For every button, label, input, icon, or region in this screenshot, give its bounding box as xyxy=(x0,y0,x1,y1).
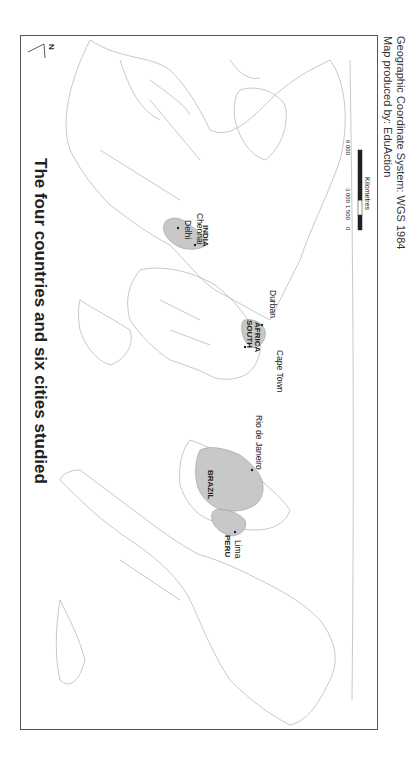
city-dot-rio xyxy=(251,469,253,471)
north-america-outline xyxy=(60,470,335,725)
scale-tick-6000: 6 000 xyxy=(345,140,351,155)
australia-outline xyxy=(234,88,286,160)
scale-tick-1500: 1 500 xyxy=(345,205,351,220)
country-label-peru: PERU xyxy=(223,535,232,557)
country-label-brazil: BRAZIL xyxy=(206,470,215,499)
map-title: The four countries and six cities studie… xyxy=(30,158,50,484)
scale-unit: Kilometres xyxy=(364,177,371,210)
city-label-durban: Durban xyxy=(268,290,278,318)
city-label-lima: Lima xyxy=(233,540,243,558)
city-dot-lima xyxy=(234,531,236,533)
city-label-delhi: Delhi xyxy=(183,220,193,239)
credit-producer: Map produced by: EduAction xyxy=(382,36,394,177)
eurasia-outline xyxy=(66,40,345,320)
scale-bar xyxy=(358,150,362,230)
city-dot-delhi xyxy=(177,227,179,229)
city-label-cape-town: Cape Town xyxy=(275,350,285,392)
city-label-rio: Rio de Janeiro xyxy=(254,415,264,470)
peru-shape xyxy=(212,509,246,536)
scale-tick-3000: 3 000 xyxy=(345,188,351,203)
credit-crs: Geographic Coordinate System: WGS 1984 xyxy=(395,36,407,249)
scale-tick-0: 0 xyxy=(345,227,351,230)
country-label-south-africa-2: AFRICA xyxy=(253,322,262,352)
north-label: N xyxy=(47,44,56,50)
north-arrow-icon xyxy=(28,44,45,58)
city-label-chennai: Chennai xyxy=(195,213,205,245)
world-map xyxy=(0,0,407,773)
africa-outline xyxy=(128,268,261,379)
